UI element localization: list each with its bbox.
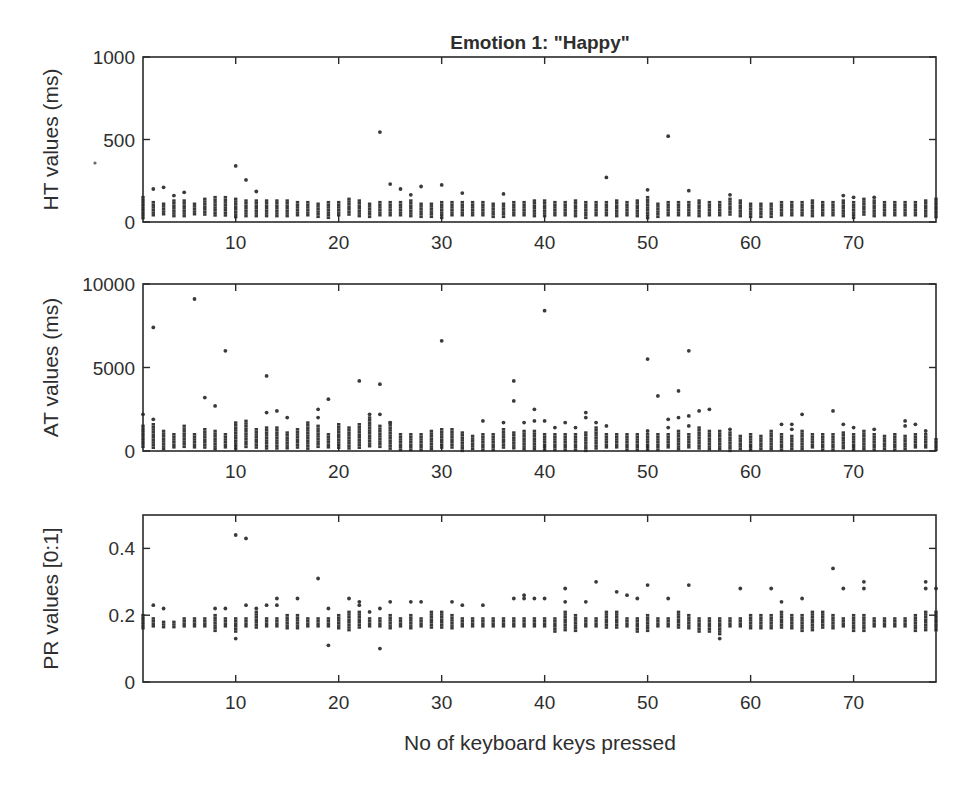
y-tick-label: 0.2: [109, 605, 135, 626]
outlier-point: [841, 194, 845, 198]
outlier-point: [914, 422, 918, 426]
outlier-point: [862, 580, 866, 584]
outlier-point: [378, 382, 382, 386]
outlier-point: [543, 309, 547, 313]
x-ticks: 10203040506070: [225, 515, 864, 713]
x-tick-label: 70: [843, 461, 864, 482]
outlier-point: [594, 580, 598, 584]
x-tick-label: 70: [843, 692, 864, 713]
x-axis-label: No of keyboard keys pressed: [404, 731, 676, 754]
outlier-point: [687, 424, 691, 428]
outlier-point: [512, 379, 516, 383]
x-tick-label: 50: [637, 692, 658, 713]
chart-figure: Emotion 1: "Happy" 102030405060700500100…: [0, 0, 963, 786]
x-tick-label: 20: [328, 232, 349, 253]
x-tick-label: 20: [328, 692, 349, 713]
x-tick-label: 60: [740, 232, 761, 253]
outlier-point: [563, 600, 567, 604]
outlier-point: [244, 603, 248, 607]
outlier-point: [151, 603, 155, 607]
outlier-point: [193, 297, 197, 301]
outlier-point: [481, 419, 485, 423]
x-tick-label: 70: [843, 232, 864, 253]
outlier-point: [646, 357, 650, 361]
axes-box: [143, 515, 936, 682]
outlier-point: [151, 187, 155, 191]
x-ticks: 10203040506070: [225, 284, 864, 482]
x-tick-label: 30: [431, 232, 452, 253]
outlier-point: [265, 603, 269, 607]
y-tick-label: 10000: [82, 274, 135, 295]
outlier-point: [481, 603, 485, 607]
outlier-point: [666, 134, 670, 138]
outlier-point: [687, 414, 691, 418]
outlier-point: [151, 326, 155, 330]
outlier-point: [460, 603, 464, 607]
outlier-point: [677, 416, 681, 420]
outlier-point: [687, 189, 691, 193]
x-ticks: 10203040506070: [225, 57, 864, 253]
y-tick-label: 500: [103, 130, 135, 151]
data-points: [141, 533, 938, 650]
x-tick-label: 30: [431, 461, 452, 482]
outlier-point: [718, 637, 722, 641]
outlier-point: [327, 397, 331, 401]
outlier-point: [852, 426, 856, 430]
outlier-point: [687, 583, 691, 587]
outlier-point: [708, 407, 712, 411]
outlier-point: [635, 597, 639, 601]
outlier-point: [533, 407, 537, 411]
outlier-point: [800, 597, 804, 601]
outlier-point: [327, 643, 331, 647]
outlier-point: [666, 426, 670, 430]
outlier-point: [327, 607, 331, 611]
outlier-point: [841, 422, 845, 426]
x-tick-label: 40: [534, 232, 555, 253]
outlier-point: [275, 603, 279, 607]
outlier-point: [790, 422, 794, 426]
outlier-point: [522, 597, 526, 601]
y-ticks: 0500010000: [82, 274, 936, 462]
pr-panel: 1020304050607000.20.4PR values [0:1]: [39, 515, 938, 713]
x-tick-label: 10: [225, 692, 246, 713]
outlier-point: [646, 188, 650, 192]
at-panel: 102030405060700500010000AT values (ms): [39, 274, 938, 482]
outlier-point: [522, 421, 526, 425]
y-axis-label: AT values (ms): [39, 298, 62, 437]
outlier-point: [646, 429, 650, 433]
outlier-point: [224, 607, 228, 611]
outlier-point: [357, 379, 361, 383]
outlier-point: [790, 427, 794, 431]
outlier-point: [254, 607, 258, 611]
outlier-point: [831, 567, 835, 571]
outlier-point: [533, 597, 537, 601]
outlier-point: [780, 422, 784, 426]
outlier-point: [409, 600, 413, 604]
outlier-point: [543, 597, 547, 601]
x-tick-label: 60: [740, 461, 761, 482]
outlier-point: [224, 349, 228, 353]
outlier-point: [450, 600, 454, 604]
outlier-point: [512, 399, 516, 403]
outlier-point: [151, 417, 155, 421]
ht-panel: 1020304050607005001000HT values (ms): [39, 47, 938, 253]
outlier-point: [728, 427, 732, 431]
outlier-point: [357, 603, 361, 607]
y-tick-label: 5000: [93, 358, 135, 379]
outlier-point: [502, 421, 506, 425]
outlier-point: [625, 593, 629, 597]
outlier-point: [584, 411, 588, 415]
x-tick-label: 40: [534, 461, 555, 482]
outlier-point: [265, 411, 269, 415]
outlier-point: [646, 583, 650, 587]
outlier-point: [254, 190, 258, 194]
outlier-point: [440, 339, 444, 343]
axes-box: [143, 57, 936, 222]
outlier-point: [213, 607, 217, 611]
outlier-point: [780, 600, 784, 604]
outlier-point: [522, 593, 526, 597]
outlier-point: [800, 412, 804, 416]
outlier-point: [924, 587, 928, 591]
outlier-point: [388, 421, 392, 425]
outlier-point: [265, 374, 269, 378]
